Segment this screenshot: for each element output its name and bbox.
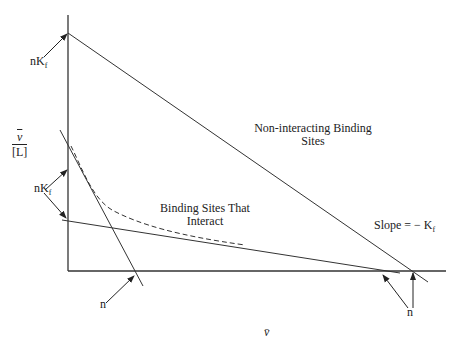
arrow-nkf-mid-down [44, 193, 66, 218]
nkf-top-label: nKf [30, 55, 47, 69]
interacting-line2: Interact [150, 215, 260, 228]
n-left-label: n [100, 298, 106, 311]
nkf-top-sub: f [45, 61, 48, 70]
nkf-middle-sub: f [49, 188, 52, 197]
interacting-curve [71, 146, 245, 245]
y-axis-denominator: [L] [12, 145, 27, 159]
arrow-nkf-top [44, 34, 67, 57]
n-right-label: n [407, 306, 413, 319]
x-axis-label: v̄ [264, 326, 269, 339]
slope-sub: f [433, 225, 436, 234]
y-axis-label: v [L] [12, 130, 27, 159]
non-interacting-line [68, 33, 428, 282]
y-axis-numerator: v [12, 130, 27, 145]
arrow-n-right-1 [383, 275, 408, 308]
steep-asymptote-line [60, 130, 143, 286]
slope-label: Slope = − Kf [374, 219, 435, 233]
arrow-n-left [106, 276, 134, 303]
scatchard-diagram [0, 0, 464, 352]
non-interacting-label: Non-interacting Binding Sites [248, 122, 378, 148]
nkf-top-text: nK [30, 54, 45, 68]
non-interacting-line2: Sites [248, 135, 378, 148]
nkf-middle-text: nK [34, 181, 49, 195]
slope-text: Slope = − K [374, 218, 433, 232]
interacting-label: Binding Sites That Interact [150, 202, 260, 228]
nkf-middle-label: nKf [34, 182, 51, 196]
